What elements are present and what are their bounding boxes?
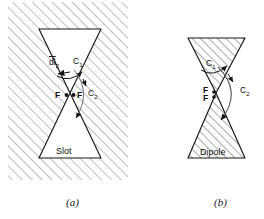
panel-b-dipole <box>188 38 245 158</box>
antenna-diagram <box>0 0 264 219</box>
feed-dot-lower-b <box>212 95 216 99</box>
contour-c2-b-tick <box>228 74 233 82</box>
dipole-upper-triangle <box>188 38 245 93</box>
feed-dot-upper-b <box>212 90 216 94</box>
feed-dot-left-a <box>65 93 69 97</box>
caption-b: (b) <box>214 196 227 208</box>
panel-a-slot <box>8 2 128 180</box>
feed-dot-right-a <box>72 93 76 97</box>
caption-a: (a) <box>66 196 79 208</box>
dipole-lower-triangle <box>188 93 245 158</box>
